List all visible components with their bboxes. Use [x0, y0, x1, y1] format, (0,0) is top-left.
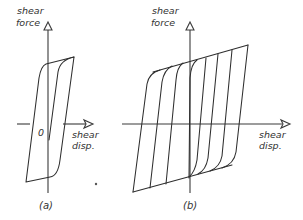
- figure-a-y-label-2: force: [16, 17, 40, 28]
- figure-b-y-arrow-icon: [186, 22, 194, 30]
- figure-a-x-label-2: disp.: [72, 140, 95, 151]
- figure-a-y-arrow-icon: [44, 22, 52, 30]
- figure-b-y-label-2: force: [151, 17, 175, 28]
- figure-a-outer-loop: [26, 57, 74, 182]
- figure-b-loop-4-right: [189, 58, 206, 177]
- figure-b-caption: (b): [183, 200, 197, 211]
- figure-b-x-label-2: disp.: [259, 140, 282, 151]
- figure-b-loop-2-left: [150, 66, 172, 188]
- hysteresis-figure: shear force shear disp. 0 (a) shear forc…: [0, 0, 303, 220]
- figure-b-bottom-envelope: [133, 165, 232, 192]
- figure-b-x-arrow-icon: [281, 120, 290, 128]
- figure-b-loop-6-right: [210, 50, 232, 171]
- figure-a-caption: (a): [39, 200, 53, 211]
- figure-b-loop-7-right: [222, 45, 248, 168]
- figure-b-y-label-1: shear: [152, 5, 180, 16]
- stray-mark: [95, 183, 97, 185]
- figure-b: shear force shear disp. (b): [122, 5, 290, 211]
- figure-a: shear force shear disp. 0 (a): [16, 5, 100, 211]
- figure-b-x-label-1: shear: [259, 129, 287, 140]
- figure-a-inner-loop: [49, 57, 74, 140]
- figure-b-top-envelope: [153, 45, 248, 72]
- figure-a-origin-label: 0: [38, 127, 44, 138]
- figure-a-x-label-1: shear: [72, 129, 100, 140]
- figure-a-y-label-1: shear: [17, 5, 45, 16]
